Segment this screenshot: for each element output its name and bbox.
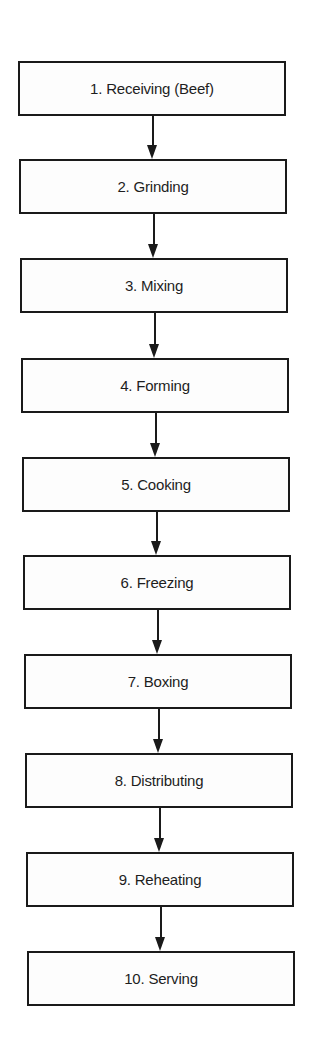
arrow-down-icon xyxy=(148,214,160,258)
arrow-down-icon xyxy=(155,907,167,951)
step-label: 3. Mixing xyxy=(125,277,183,294)
arrow-down-icon xyxy=(149,313,161,358)
step-label: 9. Reheating xyxy=(119,871,202,888)
step-cooking: 5. Cooking xyxy=(22,457,290,512)
arrow-down-icon xyxy=(150,413,162,457)
step-label: 10. Serving xyxy=(124,970,198,987)
arrow-down-icon xyxy=(153,709,165,753)
step-distributing: 8. Distributing xyxy=(25,753,293,808)
step-forming: 4. Forming xyxy=(21,358,289,413)
step-reheating: 9. Reheating xyxy=(26,852,294,907)
arrow-down-icon xyxy=(151,512,163,555)
arrow-down-icon xyxy=(152,610,164,654)
step-freezing: 6. Freezing xyxy=(23,555,291,610)
step-label: 4. Forming xyxy=(120,377,190,394)
step-mixing: 3. Mixing xyxy=(20,258,288,313)
step-label: 7. Boxing xyxy=(128,673,189,690)
step-label: 2. Grinding xyxy=(117,178,188,195)
arrow-down-icon xyxy=(147,116,159,159)
step-label: 8. Distributing xyxy=(115,772,204,789)
step-boxing: 7. Boxing xyxy=(24,654,292,709)
step-receiving: 1. Receiving (Beef) xyxy=(18,61,286,116)
step-label: 1. Receiving (Beef) xyxy=(90,80,214,97)
step-label: 5. Cooking xyxy=(121,476,191,493)
step-label: 6. Freezing xyxy=(121,574,194,591)
step-grinding: 2. Grinding xyxy=(19,159,287,214)
step-serving: 10. Serving xyxy=(27,951,295,1006)
arrow-down-icon xyxy=(154,808,166,852)
